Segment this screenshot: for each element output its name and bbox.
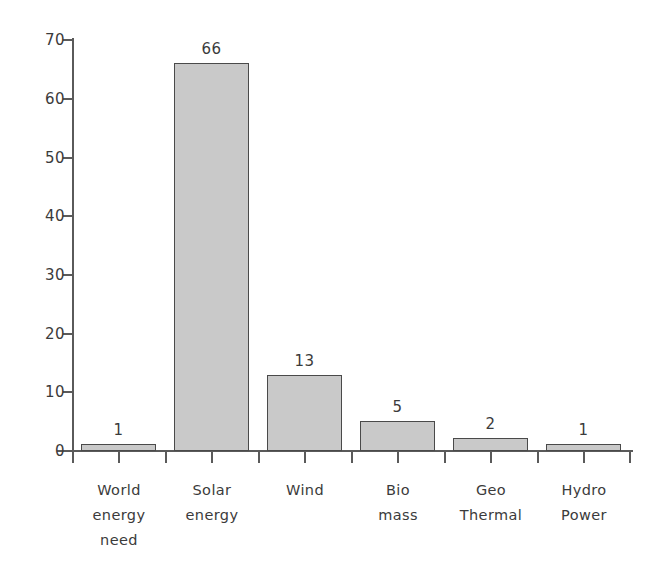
category-label-line: Bio [353, 478, 443, 503]
category-label-line: Geo [446, 478, 536, 503]
bar-value-world-energy-need: 1 [81, 421, 156, 439]
x-tick-boundary-5 [537, 452, 539, 463]
x-tick-center-solar-energy [211, 452, 213, 463]
category-label-line: Thermal [446, 503, 536, 528]
x-tick-boundary-2 [258, 452, 260, 463]
category-label-world-energy-need: World energy need [74, 478, 164, 553]
bar-world-energy-need [81, 444, 156, 451]
x-tick-boundary-6 [629, 452, 631, 463]
y-tick-label-20: 20 [25, 325, 65, 343]
category-label-line: energy [74, 503, 164, 528]
category-label-line: energy [167, 503, 257, 528]
y-tick-label-40: 40 [25, 207, 65, 225]
category-label-bio-mass: Bio mass [353, 478, 443, 528]
y-tick-label-50: 50 [25, 149, 65, 167]
x-tick-center-geo-thermal [490, 452, 492, 463]
category-label-line: mass [353, 503, 443, 528]
x-tick-center-wind [304, 452, 306, 463]
plot-area: 70 60 50 40 30 20 10 0 1 66 [0, 0, 661, 572]
bar-solar-energy [174, 63, 249, 451]
x-tick-center-world-energy-need [118, 452, 120, 463]
x-tick-center-bio-mass [397, 452, 399, 463]
category-label-line: need [74, 528, 164, 553]
x-tick-boundary-4 [444, 452, 446, 463]
x-tick-boundary-0 [72, 452, 74, 463]
category-label-line: Hydro [539, 478, 629, 503]
bar-hydro-power [546, 444, 621, 451]
y-tick-label-60: 60 [25, 90, 65, 108]
category-label-solar-energy: Solar energy [167, 478, 257, 528]
category-label-line: Power [539, 503, 629, 528]
y-tick-label-30: 30 [25, 266, 65, 284]
category-label-line: World [74, 478, 164, 503]
y-tick-label-70: 70 [25, 31, 65, 49]
bar-value-bio-mass: 5 [360, 398, 435, 416]
bar-chart: 70 60 50 40 30 20 10 0 1 66 [0, 0, 661, 572]
y-axis-line [72, 38, 74, 452]
x-tick-boundary-3 [351, 452, 353, 463]
bar-geo-thermal [453, 438, 528, 451]
bar-wind [267, 375, 342, 451]
bar-value-geo-thermal: 2 [453, 415, 528, 433]
category-label-geo-thermal: Geo Thermal [446, 478, 536, 528]
bar-value-wind: 13 [267, 352, 342, 370]
bar-value-solar-energy: 66 [174, 40, 249, 58]
y-tick-label-0: 0 [25, 442, 65, 460]
x-tick-center-hydro-power [583, 452, 585, 463]
x-tick-boundary-1 [165, 452, 167, 463]
category-label-wind: Wind [260, 478, 350, 503]
category-label-hydro-power: Hydro Power [539, 478, 629, 528]
category-label-line: Solar [167, 478, 257, 503]
y-tick-label-10: 10 [25, 383, 65, 401]
category-label-line: Wind [260, 478, 350, 503]
bar-bio-mass [360, 421, 435, 451]
bar-value-hydro-power: 1 [546, 421, 621, 439]
